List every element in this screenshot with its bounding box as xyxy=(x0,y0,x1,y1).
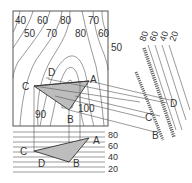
contour-label: 80 xyxy=(60,15,72,26)
rotated-point-d: D xyxy=(170,98,177,109)
contour-label: 70 xyxy=(46,28,58,39)
contour-label: 40 xyxy=(15,15,27,26)
contour-label: 60 xyxy=(98,28,110,39)
rotated-label-20: 20 xyxy=(167,30,180,43)
three-point-problem-diagram: 40 60 80 70 50 70 80 60 50 90 100 A B C … xyxy=(0,0,192,183)
rotated-point-b: B xyxy=(152,130,159,141)
contour-label: 50 xyxy=(24,28,36,39)
elevation-label-80: 80 xyxy=(108,130,118,140)
rotated-elevation-labels: 80 60 40 20 xyxy=(137,30,180,43)
section-point-a: A xyxy=(93,135,100,146)
contour-label: 50 xyxy=(111,42,123,53)
section-point-d: D xyxy=(38,158,45,169)
section-point-c: C xyxy=(20,146,27,157)
point-label-d: D xyxy=(48,67,55,78)
elevation-label-40: 40 xyxy=(108,152,118,162)
point-label-a: A xyxy=(90,74,97,85)
elevation-label-60: 60 xyxy=(108,141,118,151)
elevation-label-20: 20 xyxy=(108,164,118,174)
contour-label: 60 xyxy=(37,15,49,26)
rotated-bed-lower xyxy=(136,72,163,140)
contour-label: 70 xyxy=(88,15,100,26)
rotated-point-c: C xyxy=(145,112,152,123)
contour-label: 100 xyxy=(78,103,95,114)
rotated-section xyxy=(136,45,190,140)
contour-label: 80 xyxy=(75,28,87,39)
point-label-c: C xyxy=(22,81,29,92)
section-point-b: B xyxy=(73,158,80,169)
contour-label: 90 xyxy=(35,109,47,120)
point-label-b: B xyxy=(67,114,74,125)
rotated-bed-upper xyxy=(144,48,174,137)
